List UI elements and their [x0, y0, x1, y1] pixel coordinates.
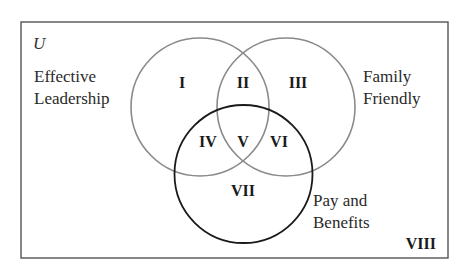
- venn-diagram: U Effective Leadership Family Friendly P…: [0, 0, 469, 270]
- region-label-4: IV: [199, 133, 217, 150]
- region-label-7: VII: [231, 182, 255, 199]
- set-label-effective-leadership-line2: Leadership: [34, 89, 110, 108]
- universe-frame: [21, 22, 448, 258]
- region-label-1: I: [179, 74, 185, 91]
- region-label-5: V: [237, 133, 249, 150]
- circle-family-friendly: [217, 38, 355, 176]
- set-label-effective-leadership-line1: Effective: [34, 67, 96, 86]
- universe-label: U: [33, 34, 47, 53]
- region-label-8: VIII: [406, 235, 436, 252]
- set-label-pay-benefits-line2: Benefits: [313, 213, 370, 232]
- region-label-2: II: [237, 74, 249, 91]
- circle-effective-leadership: [131, 38, 269, 176]
- region-label-6: VI: [270, 133, 288, 150]
- set-label-family-friendly-line2: Friendly: [363, 89, 421, 108]
- circle-pay-and-benefits: [175, 105, 313, 243]
- set-label-family-friendly-line1: Family: [363, 67, 412, 86]
- region-label-3: III: [289, 74, 308, 91]
- set-label-pay-benefits-line1: Pay and: [313, 191, 368, 210]
